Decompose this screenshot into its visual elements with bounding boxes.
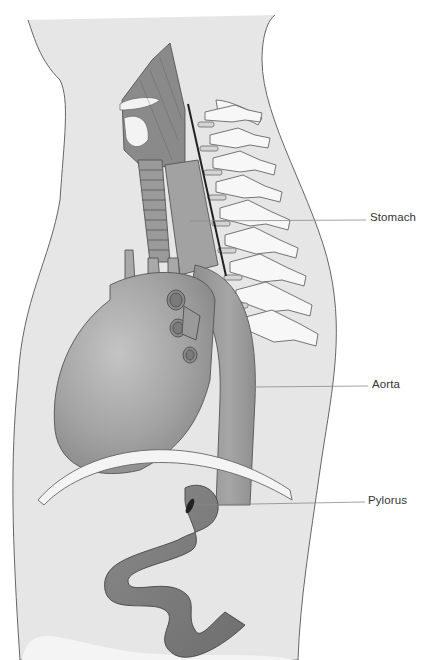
label-aorta: Aorta: [372, 378, 400, 390]
label-stomach: Stomach: [370, 211, 416, 223]
anatomy-diagram: [0, 0, 426, 660]
label-pylorus: Pylorus: [368, 494, 407, 506]
